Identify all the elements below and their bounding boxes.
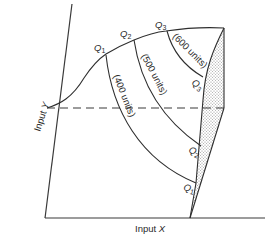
q2-top-label: Q2 <box>120 28 131 40</box>
y-axis-label: Input Y <box>31 100 51 133</box>
x-axis-label: Input X <box>135 223 166 234</box>
isoquant-500-units-label: (500 units) <box>139 52 170 97</box>
expansion-path-curve <box>47 28 224 108</box>
isoquant-600-units-label: (600 units) <box>171 31 211 71</box>
q3-bottom-label: Q3 <box>189 77 205 93</box>
isoquant-diagram: Q1 Q2 Q3 Q3 Q2 Q1 (400 units) (500 units… <box>0 0 278 242</box>
y-axis <box>45 4 72 218</box>
q1-top-label: Q1 <box>94 42 105 54</box>
q3-top-label: Q3 <box>155 19 166 31</box>
